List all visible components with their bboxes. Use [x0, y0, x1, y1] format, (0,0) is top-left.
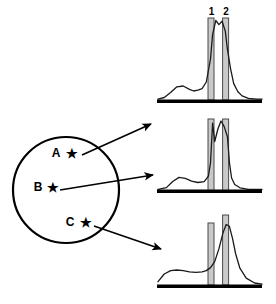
- arrow-a-to-top: [82, 124, 151, 155]
- site-a-letter: A: [52, 146, 61, 160]
- figure-root: A ★ B ★ C ★: [0, 0, 276, 304]
- star-marker: ★: [47, 180, 59, 195]
- site-b-letter: B: [34, 180, 43, 194]
- arrow-b-to-middle: [60, 175, 153, 190]
- band-1-bottom: [208, 223, 214, 285]
- band-label-1: 1: [209, 6, 215, 17]
- site-c[interactable]: C ★: [66, 215, 92, 230]
- arrow-line: [82, 124, 151, 155]
- arrow-line: [94, 226, 161, 249]
- site-b[interactable]: B ★: [34, 180, 59, 195]
- site-a[interactable]: A ★: [52, 146, 78, 161]
- star-marker: ★: [66, 146, 78, 161]
- spectrum-top[interactable]: 1 2: [157, 6, 262, 101]
- site-c-letter: C: [66, 215, 75, 229]
- arrow-c-to-bottom: [94, 226, 161, 249]
- arrow-line: [60, 175, 153, 190]
- diagram-canvas: A ★ B ★ C ★: [0, 0, 276, 304]
- star-marker: ★: [80, 215, 92, 230]
- spectrum-bottom[interactable]: [157, 215, 262, 286]
- band-label-2: 2: [223, 6, 229, 17]
- spectrum-middle[interactable]: [157, 119, 262, 191]
